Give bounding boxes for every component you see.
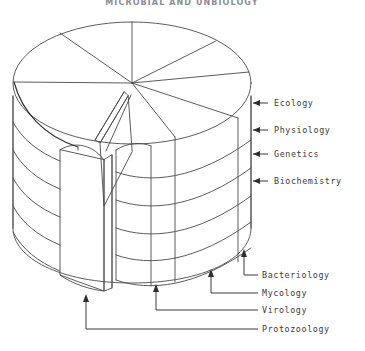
leader-protozoology	[86, 298, 258, 329]
bottom-callouts: Bacteriology Mycology Virology Protozool…	[83, 249, 330, 334]
layer-ring-l2	[13, 150, 60, 189]
label-genetics: Genetics	[274, 149, 319, 159]
sector-divider-7	[14, 82, 132, 83]
sector-divider-8	[60, 33, 132, 83]
layer-ring-r1	[116, 140, 251, 178]
layer-ring-l1	[13, 122, 60, 161]
label-bacteriology: Bacteriology	[262, 270, 330, 280]
arrow-left-icon	[253, 100, 260, 106]
layer-ring-l5	[13, 232, 60, 271]
label-virology: Virology	[262, 305, 307, 315]
label-biochemistry: Biochemistry	[274, 176, 342, 186]
exploded-wedge-top-rim	[60, 145, 104, 160]
cylinder-diagram: MICROBIAL AND UNBIOLOGY	[0, 0, 365, 351]
leader-mycology	[211, 273, 258, 293]
layer-rings-left	[13, 122, 60, 271]
layer-ring-r5	[116, 248, 251, 286]
layer-ring-r4	[116, 222, 251, 261]
label-protozoology: Protozoology	[262, 324, 330, 334]
exploded-wedge-left-panel	[60, 150, 104, 291]
figure-canvas: MICROBIAL AND UNBIOLOGY	[0, 0, 365, 351]
callout-genetics: Genetics	[253, 149, 319, 159]
callout-bacteriology: Bacteriology	[241, 249, 330, 280]
layer-rings-right	[116, 140, 251, 286]
arrow-left-icon	[253, 127, 260, 133]
figure-title: MICROBIAL AND UNBIOLOGY	[105, 0, 258, 7]
callout-physiology: Physiology	[253, 125, 330, 135]
exploded-wedge-right-panel	[104, 155, 112, 291]
arrow-left-icon	[253, 151, 260, 157]
sector-divider-3	[132, 72, 249, 83]
label-physiology: Physiology	[274, 125, 330, 135]
leader-virology	[156, 288, 258, 310]
exploded-wedge-top-left	[95, 92, 128, 143]
callout-ecology: Ecology	[253, 98, 314, 108]
exploded-wedge	[60, 92, 151, 291]
arrow-left-icon	[253, 178, 260, 184]
arrow-up-icon	[83, 294, 89, 302]
sector-divider-5	[132, 83, 175, 137]
label-ecology: Ecology	[274, 98, 314, 108]
cutaway-interior	[14, 82, 78, 150]
callout-biochemistry: Biochemistry	[253, 176, 342, 186]
exploded-wedge-edge-b	[106, 95, 131, 151]
right-callouts: Ecology Physiology Genetics Biochemistry	[253, 98, 342, 186]
exploded-wedge-edge-a	[95, 92, 124, 140]
layer-ring-l3	[13, 178, 60, 217]
label-mycology: Mycology	[262, 288, 307, 298]
sector-divider-4	[132, 83, 238, 118]
layer-ring-l4	[13, 206, 60, 245]
body-sector-edges	[151, 118, 238, 286]
